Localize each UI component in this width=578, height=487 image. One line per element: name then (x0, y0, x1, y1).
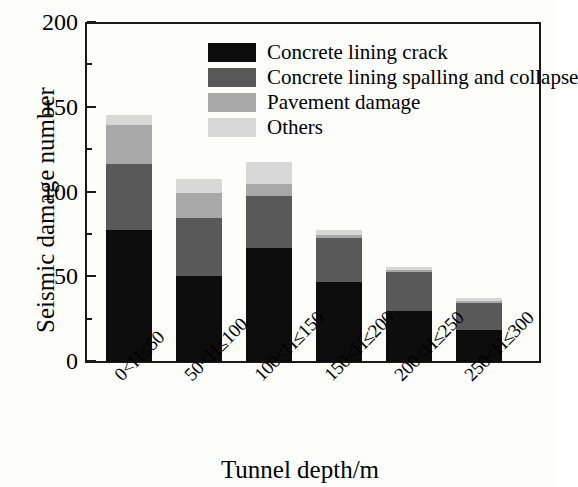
legend-item: Concrete lining spalling and collapse (208, 65, 578, 89)
legend-item: Concrete lining crack (208, 40, 578, 64)
y-axis-major-tick (87, 191, 96, 193)
y-axis-major-tick (87, 21, 96, 23)
y-axis-tick-label: 0 (8, 349, 78, 373)
bar-segment (246, 196, 292, 249)
bar-segment (316, 238, 362, 282)
x-axis-title: Tunnel depth/m (90, 456, 510, 484)
y-axis-tick-labels: 050100150200 (0, 22, 78, 362)
bar-stack (246, 162, 292, 362)
y-axis-major-tick (87, 360, 96, 362)
y-axis-tick-label: 50 (8, 264, 78, 288)
legend-label: Concrete lining crack (267, 42, 448, 63)
plot-frame-top (85, 22, 541, 24)
bar-segment (246, 162, 292, 184)
legend-label: Concrete lining spalling and collapse (267, 67, 578, 88)
bar-segment (176, 193, 222, 218)
bar-segment (176, 218, 222, 276)
bar-segment (106, 164, 152, 230)
y-axis-minor-tick (87, 148, 92, 150)
y-axis-minor-tick (87, 63, 92, 65)
legend-item: Others (208, 115, 578, 139)
legend-label: Pavement damage (267, 92, 420, 113)
y-axis-line (85, 22, 87, 363)
y-axis-major-tick (87, 106, 96, 108)
y-axis-tick-label: 100 (8, 180, 78, 204)
chart-legend: Concrete lining crackConcrete lining spa… (208, 40, 578, 140)
y-axis-major-tick (87, 275, 96, 277)
y-axis-minor-tick (87, 318, 92, 320)
y-axis-tick-label: 150 (8, 95, 78, 119)
legend-item: Pavement damage (208, 90, 578, 114)
bar-segment (176, 179, 222, 193)
bar-segment (106, 125, 152, 164)
bar-segment (386, 272, 432, 311)
bar-segment (246, 184, 292, 196)
legend-label: Others (267, 117, 323, 138)
legend-swatch (208, 93, 256, 112)
bar-segment (106, 115, 152, 125)
y-axis-minor-tick (87, 233, 92, 235)
legend-swatch (208, 43, 256, 62)
bar-stack (106, 115, 152, 362)
y-axis-tick-label: 200 (8, 10, 78, 34)
legend-swatch (208, 118, 256, 137)
legend-swatch (208, 68, 256, 87)
